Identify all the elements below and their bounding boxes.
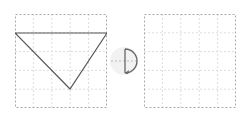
target-grid-svg: [144, 14, 236, 108]
rotation-icon: [109, 46, 139, 76]
grid-border: [16, 15, 107, 108]
source-grid: [15, 14, 107, 108]
grid-lines: [144, 14, 236, 108]
grid-border: [145, 15, 236, 108]
grid-lines: [15, 14, 107, 108]
source-grid-svg: [15, 14, 107, 108]
triangle-shape: [15, 33, 107, 89]
target-grid: [144, 14, 236, 108]
rotate-clockwise-icon: [109, 46, 139, 76]
